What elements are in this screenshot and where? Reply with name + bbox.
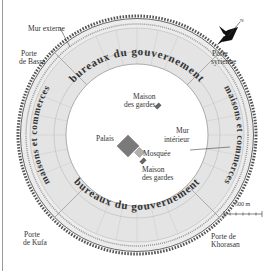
- gate-khorasan-label-2: Khorasan: [211, 241, 240, 249]
- outer-wall-label: Mur externe: [28, 25, 65, 33]
- scale-label: 500 m: [235, 200, 250, 208]
- north-label: N: [240, 18, 244, 23]
- gate-kufa-label-2: de Kufa: [23, 239, 47, 247]
- inner-wall-label-2: intérieur: [164, 136, 189, 144]
- gate-syria-label-2: syrienne: [211, 58, 236, 66]
- city-plan-svg: bureaux du gouvernement bureaux du gouve…: [0, 0, 277, 271]
- mosque-label: Mosquée: [143, 150, 171, 158]
- guard-house-top-label-2: des gardes: [124, 101, 155, 109]
- palace-label: Palais: [96, 135, 114, 143]
- inner-wall-label-1: Mur: [176, 127, 189, 135]
- compass-icon: [217, 22, 240, 45]
- guard-house-bottom-label-2: des gardes: [142, 174, 173, 182]
- gate-basra-label-2: de Basra: [19, 58, 45, 66]
- round-city-diagram: bureaux du gouvernement bureaux du gouve…: [0, 0, 277, 271]
